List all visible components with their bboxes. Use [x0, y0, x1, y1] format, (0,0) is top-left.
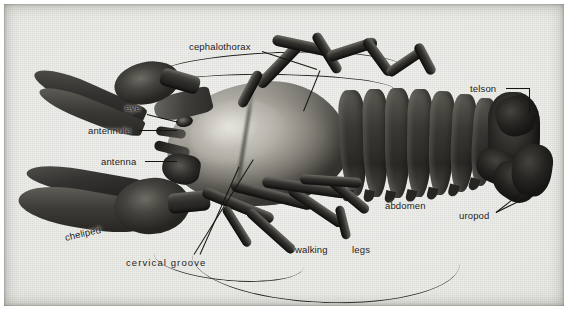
leader-antennule [139, 130, 177, 131]
photographic-plate: cephalothorax eye antennule antenna chel… [4, 4, 564, 306]
label-legs: legs [352, 244, 370, 255]
label-antennule: antennule [88, 125, 131, 136]
figure-container: cephalothorax eye antennule antenna chel… [0, 0, 568, 320]
label-cephalothorax: cephalothorax [189, 41, 251, 52]
leader-antenna [145, 161, 177, 162]
label-cervical-groove: cervical groove [126, 257, 206, 268]
label-abdomen: abdomen [385, 200, 426, 211]
leader-telson-drop [529, 88, 530, 114]
label-eye: eye [125, 102, 141, 113]
cheliped-lower-group [18, 170, 188, 256]
label-walking: walking [295, 244, 328, 255]
leader-telson [506, 88, 530, 89]
label-telson: telson [470, 83, 496, 94]
label-antenna: antenna [101, 156, 136, 167]
label-uropod: uropod [459, 210, 489, 221]
